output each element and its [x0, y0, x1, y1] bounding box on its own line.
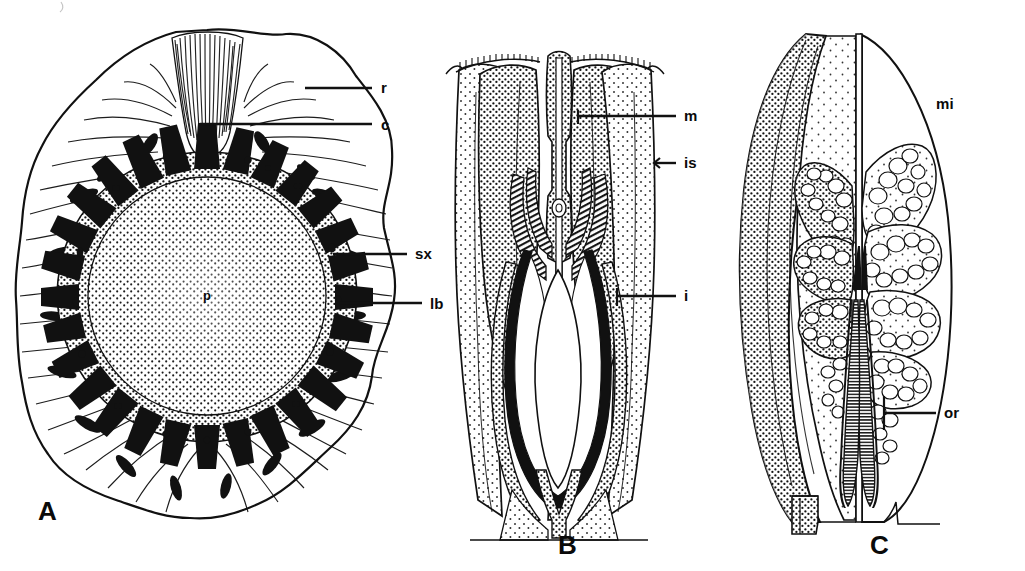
b-micropylar-canal — [556, 58, 562, 300]
label-i: i — [684, 288, 688, 303]
label-or: or — [944, 405, 959, 420]
panel-letter-b: B — [558, 532, 577, 558]
label-m: m — [684, 108, 698, 123]
b-integument — [505, 250, 611, 508]
plate-artwork — [0, 0, 1025, 571]
figure-plate: r c sx lb p A m is i B mi or C — [0, 0, 1025, 571]
panel-letter-a: A — [38, 498, 57, 524]
panel-a-artwork — [16, 29, 395, 518]
label-sx: sx — [415, 246, 432, 261]
label-lb: lb — [430, 296, 444, 311]
stray-mark — [60, 2, 63, 12]
label-r: r — [381, 80, 387, 95]
panel-letter-c: C — [870, 532, 889, 558]
panel-c-artwork — [740, 34, 952, 534]
label-is: is — [684, 155, 697, 170]
label-c: c — [381, 117, 390, 132]
b-nucellar-apex — [552, 199, 566, 217]
label-p: p — [203, 289, 211, 302]
label-mi: mi — [936, 96, 954, 111]
